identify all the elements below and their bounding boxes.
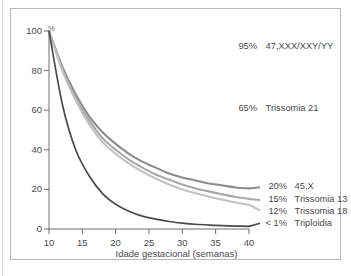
x-tick-label-30: 30 (172, 237, 192, 248)
annotation-47xxx: 95% 47,XXX/XXY/YY (229, 41, 333, 51)
annotation-47xxx-name: 47,XXX/XXY/YY (266, 41, 334, 51)
x-tick-label-35: 35 (206, 237, 226, 248)
curve-trissomia-13 (49, 31, 249, 199)
annotation-45x-name: 45,X (295, 181, 314, 191)
caption-cutoff-sliver (8, 268, 348, 276)
y-axis-ticks (44, 31, 49, 229)
x-tick-label-40: 40 (239, 237, 259, 248)
curve-45x (49, 31, 249, 188)
y-tick-label-80: 80 (16, 65, 42, 76)
y-tick-label-20: 20 (16, 183, 42, 194)
annotation-triploidia-name: Triploidia (295, 218, 332, 228)
annotation-trissomia-18-pct: 12% (261, 206, 287, 216)
annotation-triploidia: < 1% Triploidia (261, 218, 332, 228)
annotation-leader-lines (249, 187, 260, 226)
y-tick-label-100: 100 (16, 25, 42, 36)
annotation-triploidia-pct: < 1% (261, 218, 287, 228)
x-tick-label-25: 25 (139, 237, 159, 248)
x-tick-label-15: 15 (72, 237, 92, 248)
x-axis-ticks (49, 229, 249, 234)
annotation-trissomia-21-pct: 65% (229, 103, 257, 113)
x-axis-title: Idade gestacional (semanas) (11, 248, 342, 259)
annotation-47xxx-pct: 95% (229, 41, 257, 51)
annotation-trissomia-18-name: Trissomia 18 (295, 206, 348, 216)
curve-trissomia-18 (49, 31, 249, 205)
annotation-trissomia-13: 15% Trissomia 13 (261, 194, 347, 204)
annotation-trissomia-18: 12% Trissomia 18 (261, 206, 347, 216)
annotation-45x: 20% 45,X (261, 181, 314, 191)
y-tick-label-0: 0 (16, 223, 42, 234)
annotation-trissomia-21-name: Trissomia 21 (266, 103, 319, 113)
y-axis-unit-label: % (48, 24, 55, 33)
x-tick-label-10: 10 (39, 237, 59, 248)
annotation-45x-pct: 20% (261, 181, 287, 191)
page-edge-rule (2, 0, 3, 276)
y-tick-label-40: 40 (16, 144, 42, 155)
annotation-trissomia-13-pct: 15% (261, 194, 287, 204)
curve-triploidia (49, 31, 249, 226)
y-tick-label-60: 60 (16, 104, 42, 115)
annotation-trissomia-13-name: Trissomia 13 (295, 194, 348, 204)
x-tick-label-20: 20 (106, 237, 126, 248)
annotation-trissomia-21: 65% Trissomia 21 (229, 103, 318, 113)
chart-figure: % 100 80 60 40 20 0 10 15 20 25 30 35 40… (10, 8, 341, 260)
